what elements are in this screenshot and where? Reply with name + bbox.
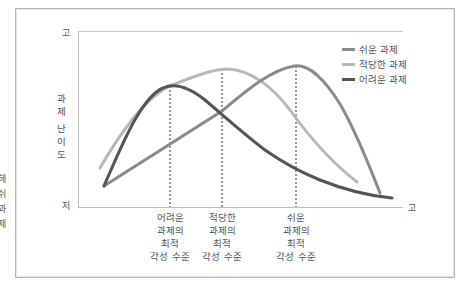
y-title-char: 난 [55,122,67,135]
x-high-label: 고 [408,201,416,214]
x-category-line: 최적 [266,237,326,250]
y-title-char: 제 [55,105,67,118]
y-title-char: 과 [55,92,67,105]
series-hard-task [104,86,392,198]
legend-label: 적당한 과제 [359,57,407,72]
legend-swatch-icon [342,63,355,66]
x-category-line: 각성 수준 [266,250,326,263]
x-category-line: 과제의 [192,224,252,237]
legend: 쉬운 과제 적당한 과제 어려운 과제 [342,42,407,87]
x-category-line: 과제의 [140,224,200,237]
x-category-easy: 쉬운 과제의 최적 각성 수준 [266,211,326,263]
y-title-char: 도 [55,148,67,161]
x-category-line: 어려운 [140,211,200,224]
legend-label: 어려운 과제 [359,72,407,87]
x-category-line: 최적 [140,237,200,250]
y-low-label: 저 [62,199,70,212]
x-category-line: 각성 수준 [192,250,252,263]
legend-item-hard: 어려운 과제 [342,72,407,87]
legend-swatch-icon [342,48,355,51]
x-category-hard: 어려운 과제의 최적 각성 수준 [140,211,200,263]
x-category-line: 적당한 [192,211,252,224]
x-category-moderate: 적당한 과제의 최적 각성 수준 [192,211,252,263]
y-axis-title: 과 제 난 이 도 [55,92,67,161]
y-title-char: 이 [55,135,67,148]
x-category-line: 각성 수준 [140,250,200,263]
series-easy-task [104,66,380,193]
x-category-line: 쉬운 [266,211,326,224]
x-category-line: 과제의 [266,224,326,237]
x-category-line: 최적 [192,237,252,250]
y-high-label: 고 [62,26,70,39]
legend-swatch-icon [342,78,355,81]
legend-item-easy: 쉬운 과제 [342,42,407,57]
legend-label: 쉬운 과제 [359,42,398,57]
legend-item-moderate: 적당한 과제 [342,57,407,72]
